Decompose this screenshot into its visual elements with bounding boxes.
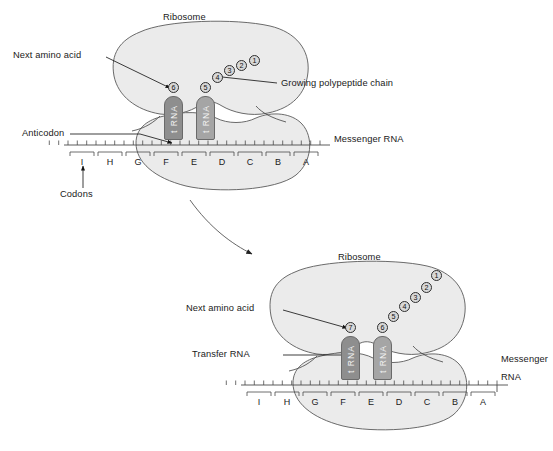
growing-polypeptide-chain-label: Growing polypeptide chain	[281, 78, 393, 89]
codon-letter-f: F	[336, 397, 350, 408]
amino-acid-next-top: 6	[168, 82, 179, 93]
codon-letter-a: A	[299, 157, 313, 168]
amino-acid-number: 5	[201, 83, 210, 92]
amino-acid-number: 3	[225, 66, 234, 75]
amino-acid-number: 2	[237, 61, 246, 70]
codon-letter-d: D	[215, 157, 229, 168]
codon-letter-b: B	[271, 157, 285, 168]
codon-letter-h: H	[103, 157, 117, 168]
codon-letter-e: E	[187, 157, 201, 168]
codon-letter-i: I	[252, 397, 266, 408]
amino-acid-number: 4	[400, 302, 409, 311]
codon-letter-c: C	[243, 157, 257, 168]
trna-bottom-codon-g: t RNA	[341, 336, 360, 380]
codon-bracket	[98, 152, 122, 156]
amino-acid-number: 7	[346, 323, 355, 332]
messenger-rna-label-bottom-line2: RNA	[501, 372, 521, 383]
codons-label: Codons	[60, 189, 93, 200]
next-amino-acid-label-bottom: Next amino acid	[186, 303, 254, 314]
trna-label: t RNA	[197, 97, 215, 140]
amino-acid-3-top: 3	[224, 65, 235, 76]
codon-letter-a: A	[476, 397, 490, 408]
codon-letter-g: G	[308, 397, 322, 408]
trna-bottom-codon-f: t RNA	[373, 336, 392, 380]
trna-label: t RNA	[165, 97, 183, 140]
amino-acid-4-bottom: 4	[399, 301, 410, 312]
amino-acid-number: 1	[432, 271, 441, 280]
codon-bracket	[471, 392, 495, 396]
anticodon-label: Anticodon	[22, 128, 64, 139]
amino-acid-number: 5	[389, 312, 398, 321]
trna-label: t RNA	[374, 337, 392, 380]
next-amino-acid-label-top: Next amino acid	[13, 50, 81, 61]
amino-acid-number: 1	[250, 56, 259, 65]
amino-acid-5-bottom: 5	[388, 311, 399, 322]
translation-diagram: Ribosome Next amino acid Growing polypep…	[0, 0, 553, 451]
amino-acid-1-top: 1	[249, 55, 260, 66]
codon-bracket	[70, 152, 94, 156]
amino-acid-number: 6	[169, 83, 178, 92]
messenger-rna-label-top: Messenger RNA	[334, 134, 404, 145]
amino-acid-next-bottom: 7	[345, 322, 356, 333]
ribosome-label-top: Ribosome	[163, 12, 206, 23]
amino-acid-number: 2	[422, 283, 431, 292]
transfer-rna-label: Transfer RNA	[192, 349, 250, 360]
codon-letter-f: F	[159, 157, 173, 168]
codon-letter-e: E	[364, 397, 378, 408]
amino-acid-number: 6	[378, 323, 387, 332]
messenger-rna-label-bottom-line1: Messenger	[501, 354, 548, 365]
amino-acid-number: 3	[411, 293, 420, 302]
trna-top-codon-e: t RNA	[196, 96, 215, 140]
amino-acid-4-top: 4	[212, 72, 223, 83]
trna-label: t RNA	[342, 337, 360, 380]
trna-top-codon-f: t RNA	[164, 96, 183, 140]
amino-acid-1-bottom: 1	[431, 270, 442, 281]
codon-letter-d: D	[392, 397, 406, 408]
diagram-vector-layer	[0, 0, 553, 451]
amino-acid-2-top: 2	[236, 60, 247, 71]
transition-arrow	[190, 200, 252, 254]
codon-letter-i: I	[75, 157, 89, 168]
ribosome-label-bottom: Ribosome	[338, 252, 381, 263]
amino-acid-number: 4	[213, 73, 222, 82]
amino-acid-2-bottom: 2	[421, 282, 432, 293]
codon-letter-g: G	[131, 157, 145, 168]
amino-acid-3-bottom: 3	[410, 292, 421, 303]
codon-letter-b: B	[448, 397, 462, 408]
amino-acid-5-top: 5	[200, 82, 211, 93]
amino-acid-6-bottom: 6	[377, 322, 388, 333]
codon-letter-c: C	[420, 397, 434, 408]
codon-letter-h: H	[280, 397, 294, 408]
ribosome-small-subunit-top	[136, 113, 310, 190]
codon-bracket	[247, 392, 271, 396]
